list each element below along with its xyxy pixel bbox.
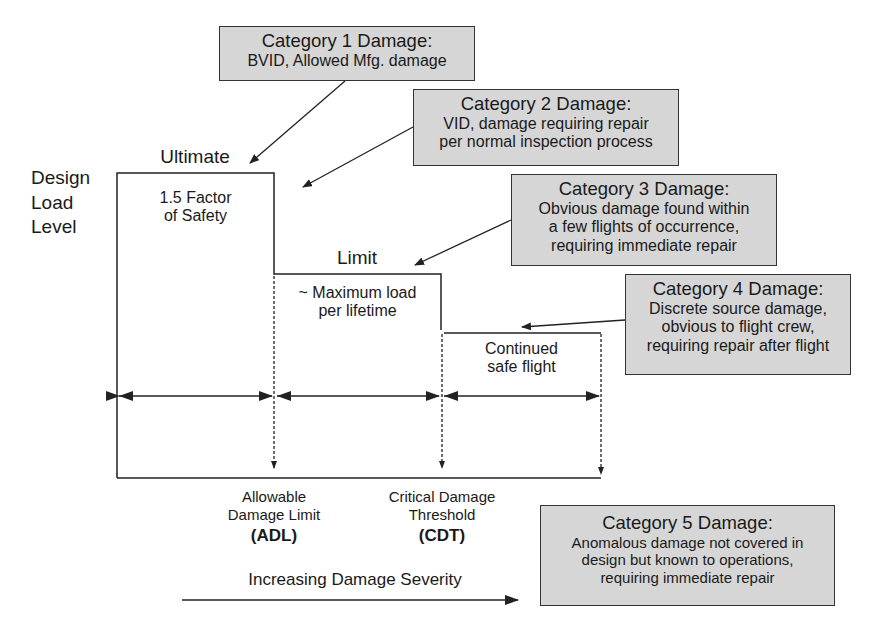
- category-desc-line: BVID, Allowed Mfg. damage: [220, 52, 474, 71]
- category-desc-line: VID, damage requiring repair: [414, 115, 678, 134]
- continued-desc-line: Continued: [442, 340, 601, 358]
- ultimate-label: Ultimate: [155, 146, 235, 168]
- y-axis-label: Design Load Level: [31, 166, 90, 240]
- limit-description: ~ Maximum load per lifetime: [274, 284, 441, 321]
- category-desc-line: requiring immediate repair: [512, 237, 776, 256]
- severity-axis-label: Increasing Damage Severity: [210, 570, 500, 590]
- continued-description: Continued safe flight: [442, 340, 601, 377]
- y-axis-label-line: Level: [31, 215, 90, 240]
- category-desc-line: Discrete source damage,: [626, 300, 850, 319]
- category-title: Category 4 Damage:: [626, 278, 850, 300]
- continued-desc-line: safe flight: [442, 358, 601, 376]
- category-title: Category 1 Damage:: [220, 30, 474, 52]
- limit-label: Limit: [327, 247, 387, 269]
- adl-label: Allowable Damage Limit (ADL): [214, 488, 334, 546]
- category-2-box: Category 2 Damage: VID, damage requiring…: [413, 89, 679, 166]
- category-title: Category 3 Damage:: [512, 178, 776, 200]
- limit-desc-line: per lifetime: [274, 302, 441, 320]
- ultimate-desc-line: of Safety: [117, 207, 274, 225]
- limit-desc-line: ~ Maximum load: [274, 284, 441, 302]
- category-desc-line: requiring repair after flight: [626, 337, 850, 356]
- cdt-abbreviation: (CDT): [372, 526, 512, 546]
- cdt-line: Critical Damage: [372, 488, 512, 506]
- ultimate-description: 1.5 Factor of Safety: [117, 189, 274, 226]
- category-desc-line: design but known to operations,: [541, 551, 834, 569]
- cdt-line: Threshold: [372, 506, 512, 524]
- category-desc-line: a few flights of occurrence,: [512, 218, 776, 237]
- category-4-box: Category 4 Damage: Discrete source damag…: [625, 274, 851, 375]
- adl-abbreviation: (ADL): [214, 526, 334, 546]
- y-axis-label-line: Load: [31, 191, 90, 216]
- category-1-box: Category 1 Damage: BVID, Allowed Mfg. da…: [219, 26, 475, 81]
- category-desc-line: requiring immediate repair: [541, 569, 834, 587]
- category-desc-line: Anomalous damage not covered in: [541, 534, 834, 552]
- ultimate-desc-line: 1.5 Factor: [117, 189, 274, 207]
- category-3-box: Category 3 Damage: Obvious damage found …: [511, 174, 777, 266]
- adl-line: Allowable: [214, 488, 334, 506]
- adl-line: Damage Limit: [214, 506, 334, 524]
- category-desc-line: per normal inspection process: [414, 133, 678, 152]
- category-desc-line: obvious to flight crew,: [626, 318, 850, 337]
- category-title: Category 2 Damage:: [414, 93, 678, 115]
- cdt-label: Critical Damage Threshold (CDT): [372, 488, 512, 546]
- category-5-box: Category 5 Damage: Anomalous damage not …: [540, 505, 835, 606]
- category-desc-line: Obvious damage found within: [512, 200, 776, 219]
- y-axis-label-line: Design: [31, 166, 90, 191]
- category-title: Category 5 Damage:: [541, 512, 834, 534]
